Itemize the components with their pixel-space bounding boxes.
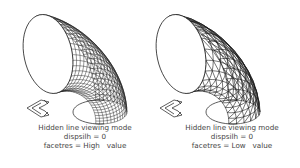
- caption-line-dispsilh: dispsilh = 0: [20, 132, 150, 141]
- pipe-end-edge: [206, 100, 237, 124]
- caption-line-mode: Hidden line viewing mode: [167, 123, 297, 132]
- caption-low: Hidden line viewing mode dispsilh = 0 fa…: [167, 123, 297, 150]
- ucs-icon: [27, 100, 49, 117]
- caption-line-mode: Hidden line viewing mode: [20, 123, 150, 132]
- mesh-line: [186, 91, 229, 124]
- mesh-line: [71, 49, 127, 112]
- mesh-line: [59, 90, 103, 124]
- caption-high: Hidden line viewing mode dispsilh = 0 fa…: [20, 123, 150, 150]
- ucs-icon: [160, 100, 182, 117]
- caption-line-dispsilh: dispsilh = 0: [167, 132, 297, 141]
- mesh-ring: [92, 73, 123, 110]
- caption-line-facetres: facetres = Low value: [167, 141, 297, 150]
- caption-line-facetres: facetres = High value: [20, 141, 150, 150]
- mesh-line: [53, 91, 96, 124]
- figure-low-facetres: Hidden line viewing mode dispsilh = 0 fa…: [133, 0, 300, 168]
- pipe-opening-ellipse: [23, 15, 73, 94]
- figure-high-facetres: Hidden line viewing mode dispsilh = 0 fa…: [0, 0, 150, 168]
